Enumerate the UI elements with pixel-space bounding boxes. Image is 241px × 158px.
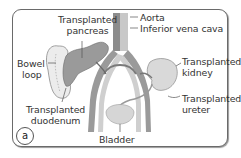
label-transplanted-duodenum: Transplanted duodenum (26, 104, 85, 126)
label-aorta: Aorta (140, 12, 165, 23)
label-bowel-loop: Bowel loop (17, 58, 45, 80)
label-line: Transplanted (58, 14, 117, 25)
label-transplanted-pancreas: Transplanted pancreas (58, 14, 117, 36)
panel-label-badge: a (16, 127, 34, 145)
label-line: Transplanted (182, 56, 241, 67)
label-line: ureter (182, 104, 241, 115)
label-transplanted-ureter: Transplanted ureter (182, 93, 241, 115)
label-line: kidney (182, 67, 241, 78)
label-transplanted-kidney: Transplanted kidney (182, 56, 241, 78)
label-line: Transplanted (26, 104, 85, 115)
label-line: pancreas (58, 25, 117, 36)
bladder-shape (106, 105, 134, 125)
label-bladder: Bladder (99, 134, 135, 145)
label-line: Transplanted (182, 93, 241, 104)
label-inferior-vena-cava: Inferior vena cava (140, 23, 223, 34)
label-line: loop (17, 69, 45, 80)
vena-cava-vessel (120, 13, 128, 51)
label-line: duodenum (26, 115, 85, 126)
label-line: Bowel (17, 58, 45, 69)
